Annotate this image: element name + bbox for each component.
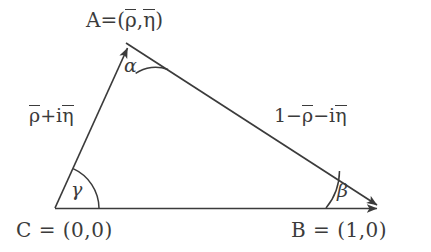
side-label-left: ρ+iη xyxy=(29,106,74,125)
triangle-drawing xyxy=(0,0,431,252)
angle-label-beta: β xyxy=(337,181,348,200)
unitarity-triangle-figure: A=(ρ,η) ρ+iη 1−ρ−iη α γ β C = (0,0) B = … xyxy=(0,0,431,252)
vertex-a-rho-bar: ρ xyxy=(125,10,137,30)
left-side-rho-bar: ρ xyxy=(29,106,40,125)
left-side-plus-i: +i xyxy=(40,104,62,126)
angle-arc-alpha xyxy=(136,67,168,73)
vertex-label-c: C = (0,0) xyxy=(16,220,113,240)
vertex-a-equals: =( xyxy=(100,8,125,32)
side-label-right: 1−ρ−iη xyxy=(274,106,347,125)
right-side-eta-bar: η xyxy=(335,106,346,125)
right-side-minus-i: −i xyxy=(313,104,335,126)
vertex-a-letter: A xyxy=(86,8,100,32)
left-side-eta-bar: η xyxy=(62,106,73,125)
vertex-label-b: B = (1,0) xyxy=(291,220,387,240)
angle-label-alpha: α xyxy=(124,56,137,75)
right-side-rho-bar: ρ xyxy=(302,106,313,125)
vertex-a-eta-bar: η xyxy=(143,10,155,30)
vertex-a-close-paren: ) xyxy=(155,8,163,32)
angle-label-gamma: γ xyxy=(71,180,82,199)
vertex-label-a: A=(ρ,η) xyxy=(86,10,163,30)
right-side-one-minus: 1− xyxy=(274,104,302,126)
